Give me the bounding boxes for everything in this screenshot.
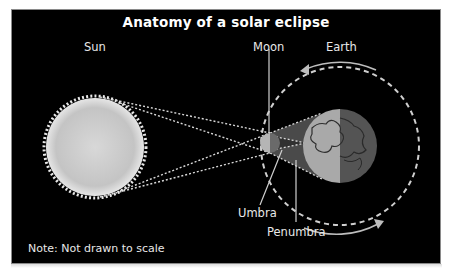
note-not-to-scale: Note: Not drawn to scale — [28, 242, 165, 255]
arrow-head-bottom — [374, 219, 384, 229]
label-earth: Earth — [326, 40, 357, 54]
label-penumbra: Penumbra — [267, 225, 325, 239]
earth — [303, 109, 377, 183]
eclipse-diagram — [0, 0, 451, 277]
label-sun: Sun — [84, 40, 106, 54]
moon — [260, 133, 280, 153]
label-umbra: Umbra — [238, 206, 277, 220]
sun — [44, 96, 146, 198]
diagram-title: Anatomy of a solar eclipse — [11, 14, 441, 30]
arrow-head-top — [300, 64, 309, 75]
label-moon: Moon — [253, 40, 284, 54]
